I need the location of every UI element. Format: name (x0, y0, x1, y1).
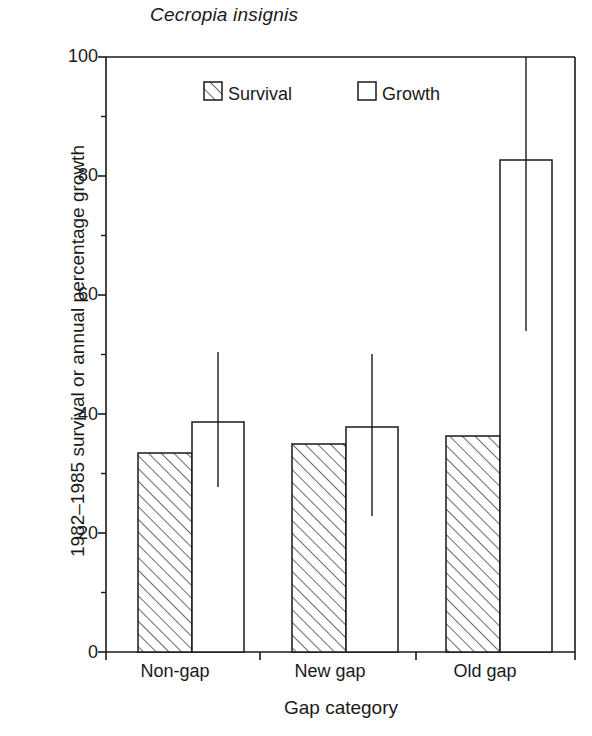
legend-swatch-growth-open-square-icon (358, 82, 376, 100)
legend-swatch-survival-hatched-square-icon (204, 82, 222, 100)
chart-figure: Cecropia insignis 1982–1985 survival or … (0, 0, 592, 736)
x-axis-ticks (106, 652, 575, 660)
chart-canvas (0, 0, 592, 736)
bar-survival-old-gap (446, 436, 500, 652)
bar-survival-new-gap (292, 444, 346, 652)
bar-survival-non-gap (138, 453, 192, 652)
